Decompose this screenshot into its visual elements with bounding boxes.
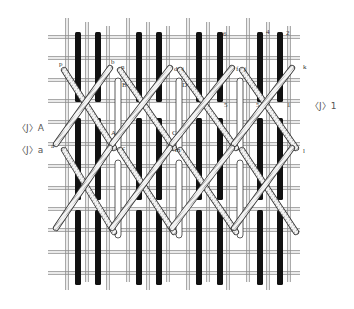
upright-stitch	[257, 210, 263, 285]
label-B: B	[122, 81, 127, 89]
label-l: l	[303, 147, 305, 155]
stitch-diagram: p b n B A C a c m d i D f j k l 6 4 2 5 …	[0, 0, 354, 309]
label-C: C	[172, 129, 177, 137]
upright-stitch	[156, 32, 162, 102]
upright-stitch	[75, 210, 81, 285]
upright-stitch	[156, 210, 162, 285]
label-d: d	[174, 65, 178, 73]
label-2: 2	[286, 29, 290, 37]
label-A: A	[111, 129, 116, 137]
label-j: j	[243, 65, 246, 73]
label-4: 4	[266, 28, 270, 36]
diagonal-stitch	[180, 150, 236, 232]
side-label-right: 〈J〉1	[310, 101, 336, 111]
side-label-left-upper: 〈J〉A	[17, 123, 45, 133]
label-5a: 5	[224, 101, 228, 109]
upright-stitch	[217, 32, 223, 102]
label-5b: 5	[256, 101, 260, 109]
label-D: D	[182, 81, 187, 89]
label-f: f	[236, 65, 239, 73]
side-label-left-lower: 〈J〉a	[17, 145, 43, 155]
label-m: m	[175, 146, 181, 154]
label-n: n	[121, 63, 125, 71]
upright-stitch	[95, 210, 101, 285]
upright-stitch	[277, 210, 283, 285]
label-1: 1	[287, 101, 291, 109]
label-p: p	[59, 60, 63, 68]
label-i: i	[182, 65, 184, 73]
upright-stitch	[196, 210, 202, 285]
upright-stitch	[217, 210, 223, 285]
upright-stitch	[136, 210, 142, 285]
label-6: 6	[223, 30, 227, 38]
label-b: b	[111, 58, 115, 66]
label-c: c	[122, 144, 125, 152]
diagonal-stitch-highlight	[180, 150, 236, 232]
label-k: k	[303, 63, 307, 71]
